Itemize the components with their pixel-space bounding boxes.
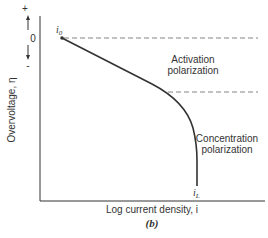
y-up-arrowhead (26, 15, 30, 20)
activation-label-line1: Activation (171, 54, 214, 65)
x-axis-label: Log current density, i (106, 204, 198, 215)
concentration-label-line1: Concentration (196, 133, 258, 144)
y-axis-label: Overvoltage, η (6, 77, 17, 142)
chart: + 0 - Overvoltage, η i0 iL Activation po… (0, 0, 268, 238)
i0-label: i0 (56, 24, 63, 37)
figure-caption: (b) (146, 217, 159, 230)
concentration-label-line2: polarization (201, 144, 252, 155)
activation-label-line2: polarization (167, 65, 218, 76)
iL-label: iL (193, 187, 200, 200)
y-minus-label: - (26, 60, 29, 71)
y-zero-label: 0 (30, 33, 36, 44)
y-plus-label: + (22, 3, 28, 14)
